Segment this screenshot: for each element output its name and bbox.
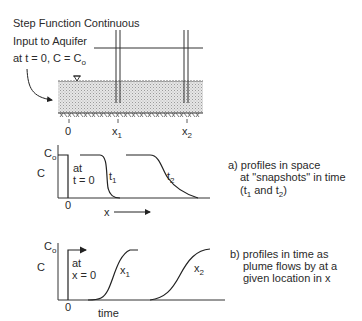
panel-a-t1-label: t1 <box>109 170 117 184</box>
well-1-label: x1 <box>112 125 122 139</box>
panel-b-time-label: time <box>98 307 119 320</box>
title-line-1: Step Function Continuous <box>13 17 140 30</box>
panel-a-zero-label: 0 <box>65 199 71 212</box>
panel-b-x1-label: x1 <box>120 264 130 278</box>
caption3-b: and t <box>251 184 279 196</box>
panel-b-co-text: C <box>44 240 52 252</box>
input-arrow-icon <box>27 69 52 100</box>
title-line-3-sub: o <box>81 58 85 67</box>
title-line-2: Input to Aquifer <box>13 35 87 48</box>
caption3-sub1: 1 <box>247 190 251 199</box>
panel-a-t2-sub: 2 <box>170 176 174 185</box>
panel-a-caption-3: (t1 and t2) <box>240 184 287 198</box>
water-table-icon <box>74 76 80 81</box>
panel-a-t0-label: t = 0 <box>73 174 95 187</box>
panel-b-c-label: C <box>37 261 45 274</box>
well-2-label: x2 <box>182 125 192 139</box>
panel-a-t1-sub: 1 <box>112 176 116 185</box>
title-line-3-text: at t = 0, C = C <box>13 52 81 64</box>
panel-b-co-label: Co <box>44 240 56 254</box>
panel-b-x2-sub: 2 <box>200 268 204 277</box>
aquifer-origin-label: 0 <box>65 125 71 138</box>
well-2-label-text: x <box>182 125 188 137</box>
caption3-a: (t <box>240 184 247 196</box>
panel-b-x2-text: x <box>194 262 200 274</box>
well-2-label-sub: 2 <box>188 131 192 140</box>
panel-b-x2-label: x2 <box>194 262 204 276</box>
panel-a-x-label: x <box>104 206 110 219</box>
panel-a-caption-2: at "snapshots" in time <box>240 171 346 184</box>
aquifer-block <box>58 81 203 117</box>
well-1-label-sub: 1 <box>118 131 122 140</box>
panel-b-zero-label: 0 <box>65 301 71 314</box>
panel-a-t2-label: t2 <box>167 170 175 184</box>
well-1-label-text: x <box>112 125 118 137</box>
panel-a-co-text: C <box>44 147 52 159</box>
panel-b-caption-3: given location in x <box>243 272 330 285</box>
panel-b-x1-text: x <box>120 264 126 276</box>
title-line-3: at t = 0, C = Co <box>13 52 86 66</box>
panel-b-x0-label: x = 0 <box>72 269 96 282</box>
curve-t2 <box>126 155 198 198</box>
panel-b-x1-sub: 1 <box>126 270 130 279</box>
panel-a-c-label: C <box>37 167 45 180</box>
curve-t0 <box>58 155 68 198</box>
caption3-sub2: 2 <box>279 190 283 199</box>
caption3-c: ) <box>283 184 287 196</box>
panel-a-co-sub: o <box>52 153 56 162</box>
panel-b-co-sub: o <box>52 246 56 255</box>
panel-a-co-label: Co <box>44 147 56 161</box>
